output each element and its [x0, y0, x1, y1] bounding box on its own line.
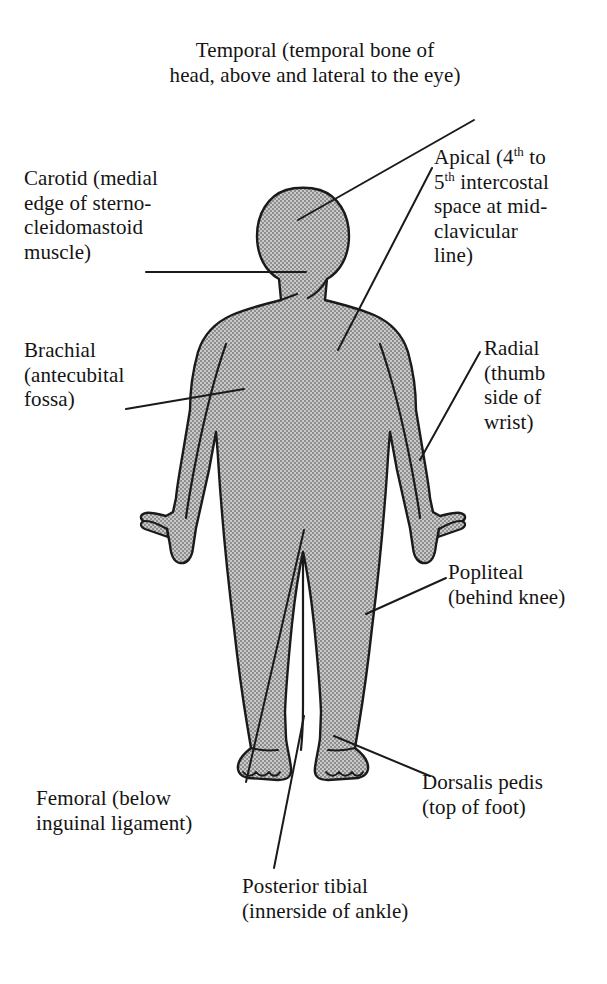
label-apical-line3: space at mid- — [434, 194, 547, 218]
label-apical-line5: line) — [434, 243, 473, 267]
label-apical-sup-5th: th — [445, 169, 455, 184]
label-radial: Radial (thumb side of wrist) — [484, 336, 604, 434]
label-posterior-tibial: Posterior tibial (innerside of ankle) — [242, 874, 532, 923]
label-apical-line1-post: to — [524, 145, 546, 169]
label-dorsalis-pedis: Dorsalis pedis (top of foot) — [422, 770, 602, 819]
body-silhouette — [141, 188, 465, 780]
label-apical-line1-pre: Apical (4 — [434, 145, 514, 169]
label-apical-line4: clavicular — [434, 219, 518, 243]
label-apical-line2-post: intercostal — [455, 170, 549, 194]
label-temporal: Temporal (temporal bone of head, above a… — [120, 38, 510, 87]
leader-line-radial — [420, 352, 480, 460]
label-apical-sup-4th: th — [514, 144, 524, 159]
label-apical-line2-pre: 5 — [434, 170, 445, 194]
label-carotid: Carotid (medial edge of sterno- cleidoma… — [24, 166, 254, 264]
label-brachial: Brachial (antecubital fossa) — [24, 338, 234, 412]
label-apical: Apical (4th to5th intercostalspace at mi… — [434, 145, 604, 268]
label-femoral: Femoral (below inguinal ligament) — [36, 786, 276, 835]
label-popliteal: Popliteal (behind knee) — [448, 560, 607, 609]
